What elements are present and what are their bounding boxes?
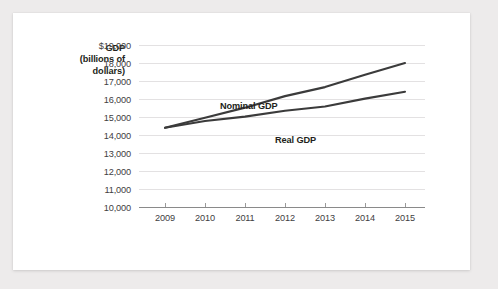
screenshot-root: GDP (billions of dollars) $19,000 18,000…	[0, 0, 498, 289]
nominal-gdp-line	[165, 63, 405, 128]
data-lines	[13, 13, 470, 270]
chart-card: GDP (billions of dollars) $19,000 18,000…	[13, 13, 470, 270]
series-label-real-gdp: Real GDP	[275, 135, 316, 145]
gdp-line-chart: GDP (billions of dollars) $19,000 18,000…	[13, 13, 470, 270]
series-label-nominal-gdp: Nominal GDP	[220, 101, 278, 111]
